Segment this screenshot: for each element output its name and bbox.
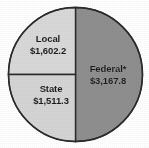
pie-slice-local[interactable] (9, 8, 76, 75)
pie-chart-svg (0, 0, 149, 148)
pie-slice-state[interactable] (9, 75, 76, 142)
pie-chart: Local $1,602.2 State $1,511.3 Federal* $… (0, 0, 149, 148)
pie-slice-federal[interactable] (76, 8, 143, 142)
